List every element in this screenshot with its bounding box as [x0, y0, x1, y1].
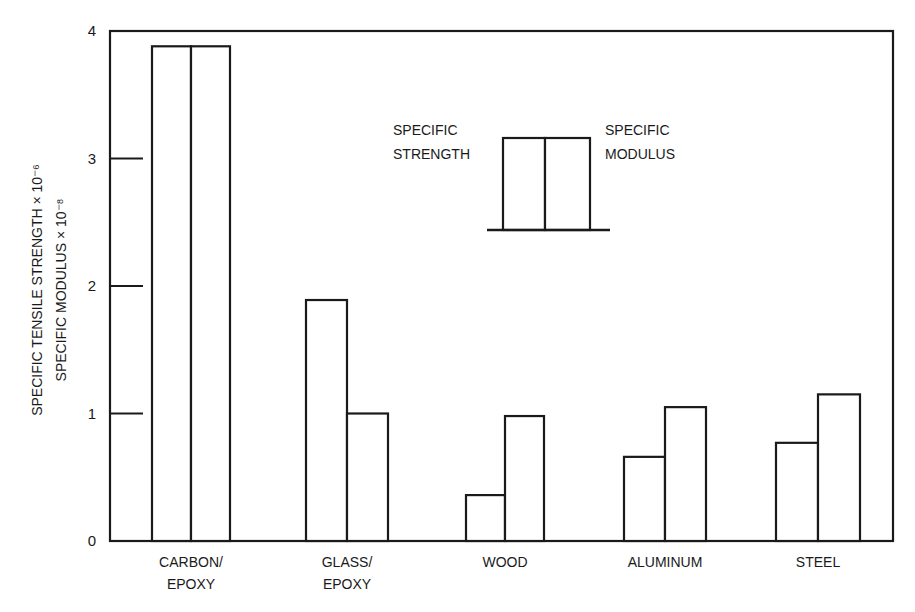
- category-label: STEEL: [796, 554, 841, 570]
- bar-group-wood: [466, 416, 544, 541]
- bar-specific-modulus: [347, 414, 388, 542]
- category-label: GLASS/: [322, 554, 373, 570]
- bar-specific-modulus: [505, 416, 544, 541]
- bar-specific-modulus: [665, 407, 706, 541]
- legend-swatch-strength: [503, 138, 545, 230]
- y-tick-label: 3: [88, 150, 96, 167]
- bar-group-glass-epoxy: [306, 300, 388, 541]
- legend-label-modulus: MODULUS: [605, 146, 675, 162]
- y-tick-label: 4: [88, 22, 96, 39]
- bar-specific-strength: [466, 495, 505, 541]
- legend-label-strength: SPECIFIC: [393, 122, 458, 138]
- category-label: EPOXY: [323, 576, 372, 592]
- bar-group-carbon-epoxy: [152, 46, 230, 541]
- category-label: CARBON/: [159, 554, 223, 570]
- y-tick-label: 0: [88, 532, 96, 549]
- y-axis-label-strength: SPECIFIC TENSILE STRENGTH × 10⁻⁶: [29, 164, 45, 416]
- legend-label-strength: STRENGTH: [393, 146, 470, 162]
- bar-specific-strength: [152, 46, 191, 541]
- y-tick-label: 2: [88, 277, 96, 294]
- legend-swatch-modulus: [545, 138, 590, 230]
- legend-label-modulus: SPECIFIC: [605, 122, 670, 138]
- bar-group-aluminum: [624, 407, 706, 541]
- category-label: EPOXY: [167, 576, 216, 592]
- y-axis-label: SPECIFIC TENSILE STRENGTH × 10⁻⁶SPECIFIC…: [29, 164, 69, 416]
- category-label: WOOD: [482, 554, 527, 570]
- bar-specific-modulus: [818, 394, 860, 541]
- y-axis-label-modulus: SPECIFIC MODULUS × 10⁻⁸: [53, 198, 69, 381]
- bar-group-steel: [776, 394, 860, 541]
- category-label: ALUMINUM: [628, 554, 703, 570]
- legend: SPECIFICSTRENGTHSPECIFICMODULUS: [393, 122, 675, 230]
- chart: 01234 SPECIFICSTRENGTHSPECIFICMODULUS CA…: [0, 0, 915, 612]
- bar-specific-strength: [306, 300, 347, 541]
- bar-specific-strength: [624, 457, 665, 541]
- bar-specific-strength: [776, 443, 818, 541]
- bars: [152, 46, 860, 541]
- category-labels: CARBON/EPOXYGLASS/EPOXYWOODALUMINUMSTEEL: [159, 554, 840, 592]
- y-tick-label: 1: [88, 405, 96, 422]
- bar-specific-modulus: [191, 46, 230, 541]
